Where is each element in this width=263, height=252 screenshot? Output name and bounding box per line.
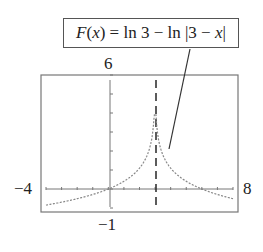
x-max-label: 8	[243, 180, 252, 197]
formula-variable: x	[92, 23, 100, 43]
y-min-label: −1	[98, 216, 116, 233]
formula-end: |	[223, 23, 226, 43]
curve-left-branch	[46, 115, 155, 205]
x-min-label: −4	[14, 180, 32, 197]
formula-variable-2: x	[215, 23, 223, 43]
callout-leader-line	[169, 49, 190, 149]
y-max-label: 6	[104, 55, 113, 72]
formula-callout: F(x) = ln 3 − ln |3 − x|	[63, 18, 239, 48]
curve-right-branch	[155, 115, 233, 199]
formula-body: = ln 3 − ln |3 −	[105, 23, 215, 43]
formula-function-name: F	[76, 23, 86, 43]
